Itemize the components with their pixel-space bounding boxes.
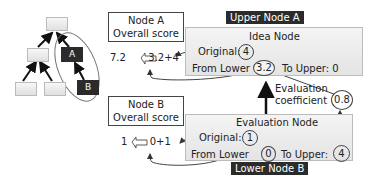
node-a-score-equation: 7.2 3.2+4 <box>110 52 179 63</box>
node-a-score-label: Node A Overall score <box>108 12 184 42</box>
coefficient-value: 0.8 <box>331 90 353 110</box>
evaluation-node-title: Evaluation Node <box>236 117 318 128</box>
node-b-score-result: 1 <box>121 136 127 147</box>
coefficient-label-line2: coefficient <box>275 95 328 107</box>
idea-from-lower-label: From Lower <box>192 63 250 74</box>
node-a-subtitle: Overall score <box>111 27 181 40</box>
evaluation-from-lower-label: From Lower <box>191 149 249 160</box>
evaluation-node-panel: Evaluation Node Original: 1 From Lower 0… <box>185 114 353 161</box>
upper-node-tag: Upper Node A <box>226 11 304 24</box>
evaluation-original-label: Original: <box>199 132 242 143</box>
node-b-score-label: Node B Overall score <box>108 96 184 126</box>
evaluation-to-upper-label: To Upper: <box>281 149 328 160</box>
idea-from-lower-value: 3.2 <box>253 60 275 76</box>
idea-original-label: Original: <box>198 46 241 57</box>
idea-original-value: 4 <box>238 44 254 60</box>
evaluation-from-lower-value: 0 <box>261 146 276 162</box>
node-b-score-equation: 1 0+1 <box>121 136 171 147</box>
node-b-score-formula: 0+1 <box>150 136 171 147</box>
coefficient-label: Evaluation coefficient <box>275 83 328 107</box>
idea-to-upper: To Upper: 0 <box>282 63 339 74</box>
evaluation-original-value: 1 <box>242 130 258 146</box>
idea-node-title: Idea Node <box>249 31 300 42</box>
coefficient-label-line1: Evaluation <box>275 83 328 95</box>
idea-node-panel: Idea Node Original: 4 From Lower 3.2 To … <box>185 27 363 76</box>
node-a-title: Node A <box>111 14 181 27</box>
evaluation-to-upper-value: 4 <box>333 145 350 162</box>
node-a-score-formula: 3.2+4 <box>148 52 179 63</box>
node-b-subtitle: Overall score <box>111 111 181 124</box>
lower-node-tag: Lower Node B <box>231 162 308 175</box>
node-b-title: Node B <box>111 98 181 111</box>
node-a-score-result: 7.2 <box>110 52 126 63</box>
